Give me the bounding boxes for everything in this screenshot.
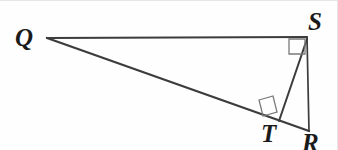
triangle-edges	[47, 37, 309, 131]
right-angle-marks	[259, 39, 305, 116]
segment-ST-altitude	[279, 39, 307, 121]
segment-QS	[47, 37, 307, 38]
vertex-label-T: T	[261, 121, 276, 146]
segment-SR	[307, 37, 309, 131]
vertex-label-S: S	[308, 9, 322, 34]
geometry-figure: Q S T R	[0, 0, 338, 150]
vertex-label-Q: Q	[15, 25, 33, 50]
right-angle-mark-at-T	[259, 96, 277, 116]
vertex-label-R: R	[302, 130, 319, 150]
triangle-diagram-svg	[0, 0, 338, 150]
segment-QR	[47, 38, 309, 131]
